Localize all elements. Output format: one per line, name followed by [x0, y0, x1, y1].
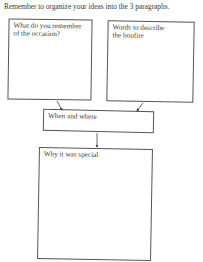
arrow-icon: [137, 103, 143, 111]
flow-arrows: [0, 0, 203, 262]
arrow-icon: [57, 101, 62, 110]
